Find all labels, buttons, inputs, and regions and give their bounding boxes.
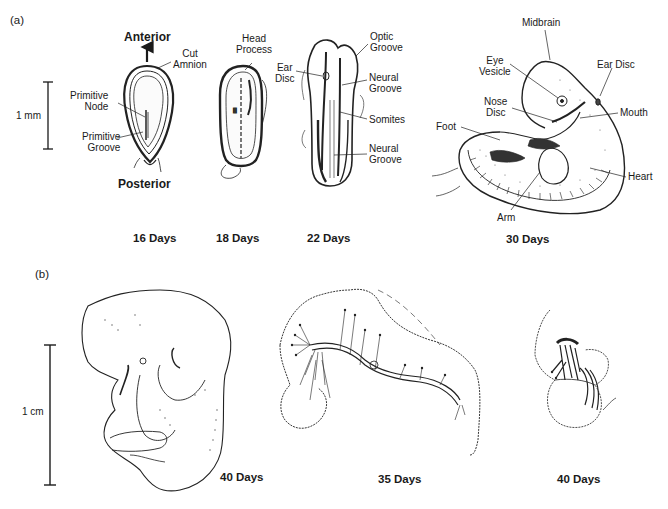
- label-neural-groove-lower: Neural Groove: [369, 143, 402, 165]
- embryo-35-days: [280, 289, 480, 455]
- label-line: Groove: [82, 142, 120, 153]
- label-primitive-node: Primitive Node: [70, 90, 108, 112]
- label-eye-vesicle: Eye Vesicle: [479, 55, 511, 77]
- day-label-40-right: 40 Days: [557, 473, 600, 485]
- label-heart: Heart: [628, 171, 652, 182]
- panel-label-b: (b): [35, 268, 49, 280]
- scale-bar-1cm: [44, 345, 56, 485]
- label-cut-amnion: Cut Amnion: [173, 48, 207, 70]
- embryo-22-days: [296, 40, 368, 186]
- label-line: Ear: [275, 62, 294, 73]
- label-line: Amnion: [173, 59, 207, 70]
- direction-posterior: Posterior: [118, 177, 171, 191]
- day-label-22: 22 Days: [307, 232, 350, 244]
- label-line: Groove: [369, 154, 402, 165]
- label-line: Disc: [484, 107, 507, 118]
- label-ear-disc-30: Ear Disc: [597, 59, 635, 70]
- scale-label-1mm: 1 mm: [16, 110, 41, 121]
- label-line: Cut: [173, 48, 207, 59]
- embryo-16-days: [117, 62, 173, 172]
- direction-anterior: Anterior: [124, 30, 171, 44]
- day-label-40-left: 40 Days: [220, 471, 263, 483]
- label-somites: Somites: [369, 114, 405, 125]
- embryo-40-days-left: [82, 290, 231, 491]
- label-primitive-groove: Primitive Groove: [82, 131, 120, 153]
- label-line: Head: [236, 33, 272, 44]
- embryo-40-days-right: [535, 310, 616, 428]
- label-line: Optic: [370, 31, 403, 42]
- label-neural-groove-upper: Neural Groove: [369, 72, 402, 94]
- label-foot: Foot: [436, 121, 456, 132]
- label-line: Neural: [369, 143, 402, 154]
- panel-label-a: (a): [10, 14, 24, 26]
- embryo-illustrations: |||: [0, 0, 668, 509]
- scale-label-1cm: 1 cm: [22, 406, 44, 417]
- label-line: Nose: [484, 96, 507, 107]
- scale-bar-1mm: [43, 82, 53, 149]
- embryo-30-days: [432, 30, 626, 214]
- day-label-16: 16 Days: [133, 232, 176, 244]
- label-line: Vesicle: [479, 66, 511, 77]
- label-line: Eye: [479, 55, 511, 66]
- day-label-35: 35 Days: [378, 473, 421, 485]
- label-head-process: Head Process: [236, 33, 272, 55]
- label-arm: Arm: [497, 212, 515, 223]
- label-line: Primitive: [70, 90, 108, 101]
- label-line: Disc: [275, 73, 294, 84]
- day-label-18: 18 Days: [216, 232, 259, 244]
- label-line: Process: [236, 44, 272, 55]
- svg-text:|||: |||: [233, 107, 237, 113]
- embryo-18-days: |||: [220, 63, 267, 178]
- label-line: Groove: [370, 42, 403, 53]
- day-label-30: 30 Days: [506, 233, 549, 245]
- label-mouth: Mouth: [620, 107, 648, 118]
- label-line: Neural: [369, 72, 402, 83]
- label-midbrain: Midbrain: [522, 17, 560, 28]
- label-line: Primitive: [82, 131, 120, 142]
- label-optic-groove: Optic Groove: [370, 31, 403, 53]
- label-line: Node: [70, 101, 108, 112]
- label-ear-disc-22: Ear Disc: [275, 62, 294, 84]
- label-nose-disc: Nose Disc: [484, 96, 507, 118]
- label-line: Groove: [369, 83, 402, 94]
